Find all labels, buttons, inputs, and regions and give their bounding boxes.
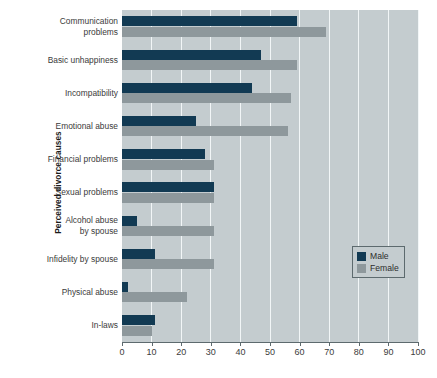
bar-male-3 (122, 116, 196, 126)
bar-female-2 (122, 93, 291, 103)
bar-female-6 (122, 226, 214, 236)
category-label-6: Alcohol abuseby spouse (22, 215, 118, 236)
x-tick (152, 342, 153, 346)
gridline (329, 10, 330, 342)
category-label-8: Physical abuse (22, 287, 118, 297)
category-label-9: In-laws (22, 320, 118, 330)
legend-label: Female (370, 263, 399, 273)
x-tick (270, 342, 271, 346)
legend-entry-female: Female (357, 262, 399, 274)
plot-area (122, 10, 418, 342)
category-label-4: Financial problems (22, 154, 118, 164)
gridline (388, 10, 389, 342)
x-tick (122, 342, 123, 346)
bar-female-4 (122, 160, 214, 170)
bar-male-5 (122, 182, 214, 192)
category-label-line: Infidelity by spouse (22, 254, 118, 264)
category-label-line: Alcohol abuse (22, 215, 118, 225)
bar-female-3 (122, 126, 288, 136)
category-label-5: Sexual problems (22, 187, 118, 197)
bar-female-1 (122, 60, 297, 70)
legend-swatch-female (357, 264, 366, 273)
x-tick (300, 342, 301, 346)
bar-male-9 (122, 315, 155, 325)
bar-female-8 (122, 292, 187, 302)
category-label-line: Basic unhappiness (22, 55, 118, 65)
category-label-line: Sexual problems (22, 187, 118, 197)
bar-male-7 (122, 249, 155, 259)
chart-legend: MaleFemale (352, 246, 405, 278)
x-tick (240, 342, 241, 346)
bar-male-6 (122, 216, 137, 226)
category-label-7: Infidelity by spouse (22, 254, 118, 264)
bar-male-4 (122, 149, 205, 159)
bar-female-7 (122, 259, 214, 269)
x-tick (359, 342, 360, 346)
x-tick (211, 342, 212, 346)
bar-female-9 (122, 326, 152, 336)
x-tick-label: 100 (401, 347, 435, 357)
bar-male-8 (122, 282, 128, 292)
category-label-line: In-laws (22, 320, 118, 330)
bar-chart: Perceived divorce causes Communicationpr… (0, 0, 437, 378)
legend-swatch-male (357, 252, 366, 261)
x-tick (388, 342, 389, 346)
gridline (418, 10, 419, 342)
gridline (358, 10, 359, 342)
category-label-line: Communication (22, 16, 118, 26)
y-axis-category-labels: CommunicationproblemsBasic unhappinessIn… (22, 10, 118, 342)
category-label-3: Emotional abuse (22, 121, 118, 131)
legend-label: Male (370, 251, 389, 261)
category-label-line: Financial problems (22, 154, 118, 164)
category-label-line: Physical abuse (22, 287, 118, 297)
x-tick (181, 342, 182, 346)
bar-male-2 (122, 83, 252, 93)
category-label-1: Basic unhappiness (22, 55, 118, 65)
category-label-0: Communicationproblems (22, 16, 118, 37)
bar-female-0 (122, 27, 326, 37)
gridline (299, 10, 300, 342)
category-label-line: Incompatibility (22, 88, 118, 98)
category-label-line: problems (22, 27, 118, 37)
category-label-line: Emotional abuse (22, 121, 118, 131)
bar-female-5 (122, 193, 214, 203)
x-tick (418, 342, 419, 346)
category-label-line: by spouse (22, 226, 118, 236)
category-label-2: Incompatibility (22, 88, 118, 98)
bar-male-0 (122, 16, 297, 26)
x-tick (329, 342, 330, 346)
bar-male-1 (122, 50, 261, 60)
legend-entry-male: Male (357, 250, 399, 262)
